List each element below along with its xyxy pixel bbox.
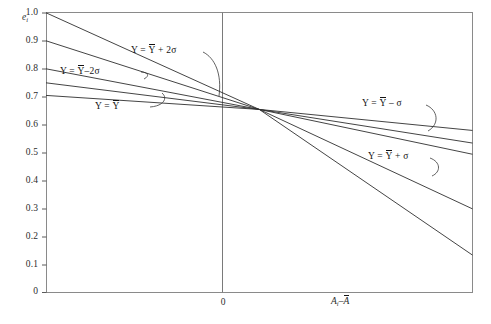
y-tick-label: 0.4 bbox=[12, 175, 38, 185]
annotation-mean-prefix: Y = bbox=[95, 101, 112, 111]
annotation-plus-2sigma: Y = Y + 2σ bbox=[131, 45, 176, 55]
y-tick-label: 0.3 bbox=[12, 203, 38, 213]
x-tick-label-zero: 0 bbox=[213, 297, 233, 307]
x-axis-label: Ai–A bbox=[331, 296, 349, 307]
annotation-mean-ybar: Y bbox=[112, 101, 119, 111]
figure-container: ei 1.0 0.9 0.8 0.7 0.6 0.5 0.4 0.3 0.2 0… bbox=[0, 0, 491, 324]
y-tick-label: 0.7 bbox=[12, 91, 38, 101]
annotation-plus-sigma-suffix: + σ bbox=[392, 151, 408, 161]
annotation-plus-2sigma-suffix: + 2σ bbox=[155, 45, 176, 55]
annotation-minus-2sigma-prefix: Y = bbox=[60, 66, 77, 76]
y-tick-label: 0.9 bbox=[12, 35, 38, 45]
y-tick-label: 0.5 bbox=[12, 147, 38, 157]
annotation-minus-sigma-suffix: – σ bbox=[386, 98, 401, 108]
chart-plot-area bbox=[0, 0, 491, 324]
annotation-minus-2sigma-ybar: Y bbox=[77, 66, 84, 76]
y-tick-label: 1.0 bbox=[12, 7, 38, 17]
annotation-plus-sigma-prefix: Y = bbox=[368, 151, 385, 161]
plot-frame bbox=[47, 13, 473, 293]
annotation-plus-2sigma-ybar: Y bbox=[148, 45, 155, 55]
annotation-minus-sigma-prefix: Y = bbox=[362, 98, 379, 108]
y-tick-label: 0.1 bbox=[12, 259, 38, 269]
annotation-minus-sigma-ybar: Y bbox=[379, 98, 386, 108]
y-tick-label: 0.8 bbox=[12, 63, 38, 73]
y-tick-label: 0.6 bbox=[12, 119, 38, 129]
annotation-minus-2sigma: Y = Y–2σ bbox=[60, 66, 100, 76]
y-tick-label: 0.2 bbox=[12, 231, 38, 241]
annotation-mean: Y = Y bbox=[95, 101, 119, 111]
y-axis-ticks bbox=[42, 13, 47, 293]
annotation-minus-sigma: Y = Y – σ bbox=[362, 98, 402, 108]
annotation-plus-2sigma-prefix: Y = bbox=[131, 45, 148, 55]
x-axis-label-a-bar: A bbox=[343, 296, 349, 306]
annotation-plus-sigma-ybar: Y bbox=[385, 151, 392, 161]
y-tick-label: 0 bbox=[12, 286, 38, 296]
annotation-minus-2sigma-suffix: –2σ bbox=[84, 66, 99, 76]
annotation-plus-sigma: Y = Y + σ bbox=[368, 151, 409, 161]
